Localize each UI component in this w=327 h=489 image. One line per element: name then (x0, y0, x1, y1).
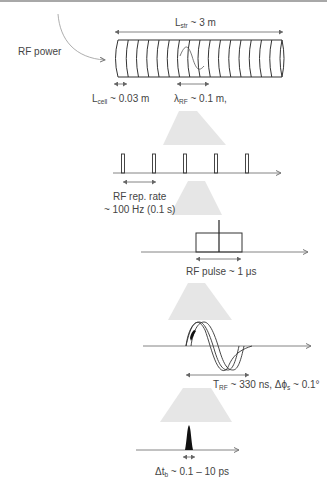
rf-period-subscript: RF (219, 384, 228, 391)
cell-wall (239, 40, 241, 77)
bunch-shape (185, 425, 193, 450)
cell-length-value: ~ 0.03 m (107, 93, 149, 104)
wavelength-label: λRF ~ 0.1 m, (174, 93, 227, 108)
structure-length-value: ~ 3 m (188, 17, 216, 28)
bunch-length-value: ~ 0.1 – 10 ps (168, 466, 229, 477)
cell-wall (188, 40, 190, 77)
cell-wall (198, 40, 200, 77)
rf-pulse (122, 154, 125, 173)
bunch-length-label: Δtb ~ 0.1 – 10 ps (155, 466, 229, 481)
bunch-on-wave (190, 330, 196, 341)
cell-wall (260, 40, 262, 77)
cell-wall (178, 40, 180, 77)
rf-wave-in-structure (180, 47, 204, 69)
rf-power-label: RF power (18, 46, 61, 58)
rep-rate-label-line2: ~ 100 Hz (0.1 s) (104, 204, 175, 216)
structure-length-label: Lstr ~ 3 m (175, 17, 216, 32)
phase-value: ~ 0.1° (290, 379, 319, 390)
cell-wall (126, 40, 128, 77)
diagram-canvas (0, 0, 327, 489)
rf-pulse-train (122, 154, 249, 173)
cell-wall (208, 40, 210, 77)
rf-period-value: ~ 330 ns, Δϕ (228, 379, 287, 390)
wavelength-subscript: RF (179, 98, 188, 105)
wavelength-value: ~ 0.1 m, (188, 93, 227, 104)
rf-pulse (215, 154, 218, 173)
cell-wall (229, 40, 231, 77)
rf-pulse (184, 154, 187, 173)
cell-wall (147, 40, 149, 77)
structure-length-subscript: str (181, 22, 188, 29)
rf-period-label: TRF ~ 330 ns, Δϕs ~ 0.1° (213, 379, 320, 394)
rf-pulse (246, 154, 249, 173)
zoom-funnel-1 (163, 111, 226, 145)
cell-wall (270, 40, 272, 77)
rf-pulse (153, 154, 156, 173)
cell-wall (137, 40, 139, 77)
accelerating-structure (116, 40, 285, 77)
rf-power-arrow (58, 14, 105, 60)
zoom-funnel-2 (170, 181, 222, 215)
cell-wall (167, 40, 169, 77)
cell-length-subscript: cell (98, 98, 108, 105)
cell-wall (219, 40, 221, 77)
cell-wall (249, 40, 251, 77)
cell-length-label: Lcell ~ 0.03 m (92, 93, 149, 108)
zoom-funnel-3 (168, 283, 232, 320)
rep-rate-label-line1: RF rep. rate (113, 191, 166, 203)
cell-wall (157, 40, 159, 77)
rf-pulse-label: RF pulse ~ 1 μs (186, 266, 257, 278)
